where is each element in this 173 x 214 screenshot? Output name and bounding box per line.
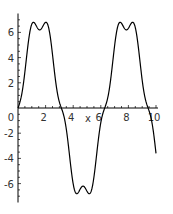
y-tick-label: 4 — [8, 53, 14, 64]
y-tick-label: -2 — [4, 128, 14, 139]
x-tick-label: 8 — [123, 112, 129, 123]
x-tick-label: 2 — [40, 112, 46, 123]
y-tick-label: -6 — [4, 179, 14, 190]
x-tick-label: 4 — [68, 112, 74, 123]
x-axis-label: x — [85, 113, 91, 124]
x-tick-labels: 0246810 — [8, 112, 161, 123]
y-tick-label: -4 — [4, 153, 14, 164]
tick-marks — [18, 20, 156, 196]
y-tick-labels: -6-4-2246 — [4, 27, 14, 189]
x-tick-label: 0 — [8, 112, 14, 123]
y-tick-label: 2 — [8, 78, 14, 89]
y-tick-label: 6 — [8, 27, 14, 38]
line-chart: 0246810 -6-4-2246 x — [0, 0, 173, 214]
